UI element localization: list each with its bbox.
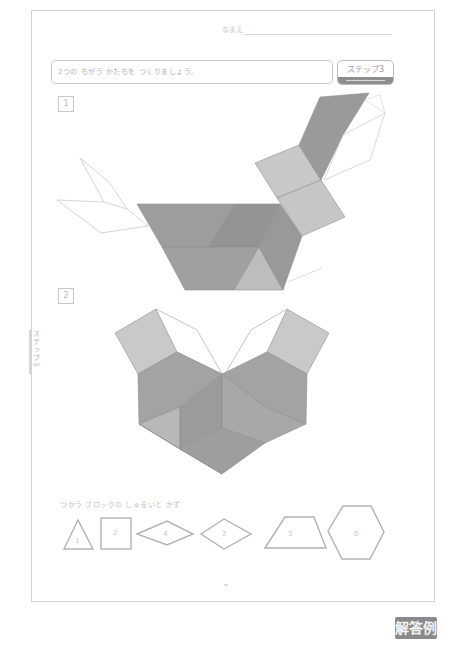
triangle-count: 1 [75, 537, 79, 545]
rhombus-count: 2 [222, 530, 226, 538]
trapezoid-count: 3 [288, 530, 292, 538]
page-footer-mark [224, 584, 228, 586]
answer-example-badge: 解答例 [395, 617, 437, 639]
square-count: 2 [113, 529, 117, 537]
trapezoid-block-icon [265, 517, 326, 548]
hexagon-count: 0 [354, 530, 358, 538]
thin-rhombus-count: 4 [163, 530, 167, 538]
block-legend [0, 0, 462, 649]
